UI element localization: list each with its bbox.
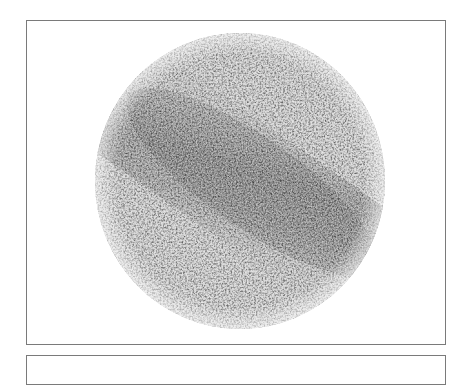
second-image-panel-frame bbox=[26, 355, 446, 385]
image-panel-frame bbox=[26, 20, 446, 345]
